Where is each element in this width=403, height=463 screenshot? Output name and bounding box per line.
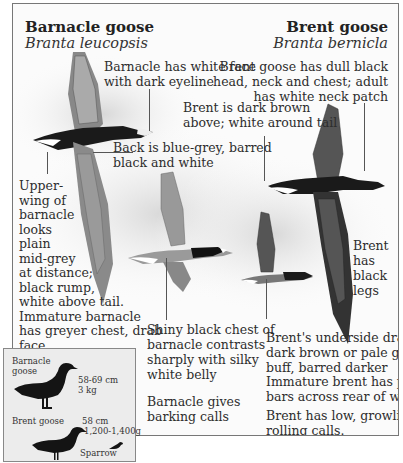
brent-calls-label: Brent has low, growling,rolling calls. <box>266 408 399 436</box>
inset-sparrow-name: Sparrow <box>80 448 117 458</box>
brent-immature-label: Immature brent has palebars across rear … <box>266 374 399 404</box>
barnacle-upperwing-label: Upper-wing of barnaclelooks plainmid-gre… <box>19 179 162 353</box>
brent-latin-name: Branta bernicla <box>273 35 388 52</box>
barnacle-silhouette-icon <box>12 359 82 409</box>
inset-brent-weight: 1,200-1,400g <box>84 426 141 436</box>
leader-line <box>266 279 267 319</box>
barnacle-calls-label: Barnacle givesbarking calls <box>147 394 240 424</box>
brent-back-label: Brent is dark brownabove; white around t… <box>183 100 337 130</box>
leader-line <box>166 258 167 320</box>
brent-underside-label: Brent's underside drabdark brown or pale… <box>266 330 399 375</box>
inset-barnacle-weight: 3 kg <box>78 385 97 395</box>
leader-line <box>149 89 150 131</box>
brent-legs-label: Brenthas blacklegs <box>353 238 389 298</box>
leader-line <box>364 103 365 171</box>
barnacle-chest-label: Shiny black chest ofbarnacle contrasts s… <box>147 322 275 382</box>
leader-line <box>47 152 48 174</box>
barnacle-common-name: Barnacle goose <box>25 19 154 36</box>
barnacle-back-label: Back is blue-grey, barredblack and white <box>113 140 272 170</box>
size-comparison-inset: Barnaclegoose 58-69 cm 3 kg Brent goose … <box>3 348 136 462</box>
brent-head-label: Brent goose has dull blackhead, neck and… <box>213 59 388 104</box>
brent-common-name: Brent goose <box>286 19 388 36</box>
barnacle-latin-name: Branta leucopsis <box>25 35 148 52</box>
inset-barnacle-length: 58-69 cm <box>78 375 118 385</box>
